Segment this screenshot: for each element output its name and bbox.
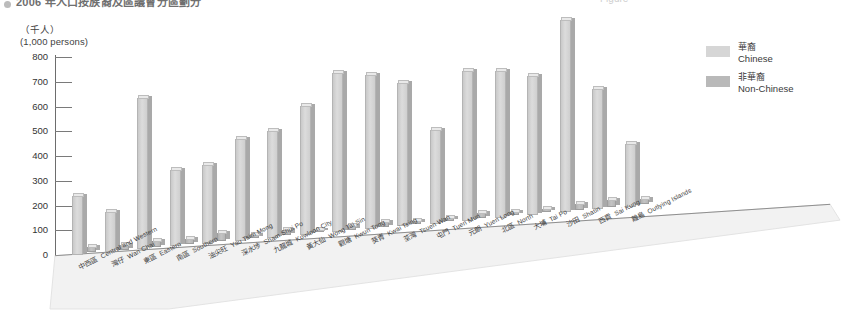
x-axis-label-cn: 沙田: [564, 216, 580, 229]
legend-label: 非華裔Non-Chinese: [738, 72, 793, 94]
x-axis-label-cn: 灣仔: [109, 255, 125, 268]
legend-label-cn: 華裔: [738, 42, 773, 53]
x-axis-label-cn: 觀塘: [337, 236, 353, 249]
x-axis-label-cn: 荃灣: [402, 230, 418, 243]
x-axis-label-cn: 南區: [174, 250, 190, 263]
legend-label: 華裔Chinese: [738, 42, 773, 64]
x-axis-label-cn: 葵青: [369, 233, 385, 246]
x-axis-label-cn: 西貢: [597, 213, 613, 226]
legend-label-en: Non-Chinese: [738, 83, 793, 94]
x-axis-label-cn: 大埔: [532, 218, 548, 231]
legend-swatch: [706, 76, 730, 87]
legend-swatch: [706, 46, 730, 57]
x-axis-label-cn: 離島: [629, 210, 645, 223]
chart-figure: 2006 年人口按族裔及區議會分區劃分 Figure （千人） (1,000 p…: [0, 0, 857, 310]
legend-label-en: Chinese: [738, 53, 773, 64]
x-axis-label-cn: 東區: [142, 253, 158, 266]
x-axis-label-cn: 北區: [499, 221, 515, 234]
x-axis-label-cn: 屯門: [434, 227, 450, 240]
x-axis-label-cn: 中西區: [77, 255, 99, 271]
legend-label-cn: 非華裔: [738, 72, 793, 83]
x-axis-label-cn: 元朗: [467, 224, 483, 237]
x-axis-label-en: Outlying Islands: [646, 186, 692, 214]
